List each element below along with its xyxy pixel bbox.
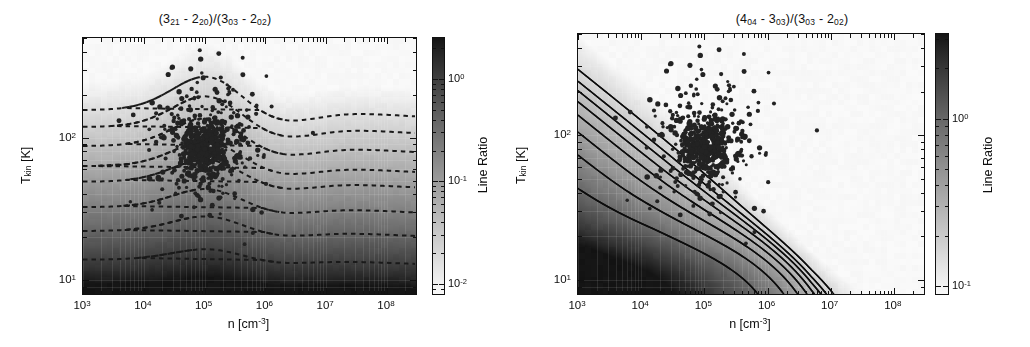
colorbar-minor-tick [441, 89, 444, 90]
tick-mantissa: 10 [377, 299, 390, 311]
scatter-points-right [578, 34, 924, 294]
x-label-base: n [cm [228, 317, 259, 331]
colorbar-title-left: Line Ratio [476, 120, 490, 210]
y-axis-label-left: Tkin [K] [19, 125, 34, 205]
colorbar-minor-tick [936, 135, 939, 136]
colorbar-minor-tick [433, 204, 436, 205]
colorbar-minor-tick [936, 185, 939, 186]
tick-mantissa: 10 [195, 299, 208, 311]
panel-left: (321 - 220)/(303 - 202) 1031041051061071… [0, 0, 515, 347]
colorbar-minor-tick [433, 191, 436, 192]
colorbar-minor-tick [433, 120, 436, 121]
x-axis-label-right: n [cm-3] [577, 316, 923, 331]
colorbar-minor-tick [441, 132, 444, 133]
colorbar-minor-tick [433, 132, 436, 133]
colorbar-minor-tick [441, 110, 444, 111]
x-tick-label: 104 [632, 299, 649, 311]
y-tick-label: 102 [541, 128, 571, 140]
colorbar-minor-tick [945, 156, 948, 157]
colorbar-tick-label: 100 [448, 72, 464, 84]
title-subscript: 02 [257, 17, 267, 27]
tick-exponent: 1 [567, 273, 571, 282]
y-label-base: T [514, 176, 528, 184]
x-tick-label: 108 [377, 299, 394, 311]
colorbar-minor-tick [433, 102, 436, 103]
x-tick-label: 104 [134, 299, 151, 311]
colorbar-minor-tick [945, 126, 948, 127]
y-tick-label: 102 [46, 130, 76, 142]
x-tick-label: 103 [568, 299, 585, 311]
tick-exponent: 1 [72, 273, 76, 282]
colorbar-minor-tick [441, 235, 444, 236]
tick-exponent: 8 [390, 299, 394, 308]
title-subscript: 03 [776, 17, 786, 27]
panel-right-title: (404 - 303)/(303 - 202) [577, 12, 1007, 27]
tick-exponent: 4 [644, 299, 648, 308]
x-tick-label: 107 [317, 299, 334, 311]
title-subscript: 20 [199, 17, 209, 27]
colorbar-minor-tick [441, 84, 444, 85]
tick-exponent: 6 [269, 299, 273, 308]
tick-mantissa: 10 [73, 299, 86, 311]
colorbar-tick-label: 10-1 [448, 174, 467, 186]
cb-mantissa: 10 [448, 277, 460, 289]
colorbar-major-tick [439, 181, 444, 182]
y-label-tail: [K] [19, 147, 33, 166]
colorbar-major-tick [433, 181, 438, 182]
colorbar-minor-tick [936, 156, 939, 157]
colorbar-minor-tick [441, 186, 444, 187]
tick-exponent: 4 [147, 299, 151, 308]
colorbar-tick-label: 100 [952, 112, 968, 124]
cb-mantissa: 10 [952, 279, 964, 291]
tick-mantissa: 10 [695, 299, 708, 311]
plot-area-left [82, 37, 417, 295]
colorbar-minor-tick [441, 204, 444, 205]
colorbar-minor-tick [433, 222, 436, 223]
scatter-points-left [83, 38, 416, 294]
colorbar-major-tick [943, 286, 948, 287]
colorbar-minor-tick [936, 145, 939, 146]
colorbar-minor-tick [433, 48, 436, 49]
y-axis-label-right: Tkin [K] [514, 125, 529, 205]
tick-mantissa: 10 [884, 299, 897, 311]
title-segment: (4 [736, 12, 748, 26]
colorbar-minor-tick [433, 289, 436, 290]
colorbar-minor-tick [441, 212, 444, 213]
cb-exponent: -1 [460, 174, 467, 183]
y-label-subscript: kin [518, 166, 528, 177]
y-tick-label: 101 [541, 273, 571, 285]
colorbar-minor-tick [433, 89, 436, 90]
y-minor-tick [83, 294, 87, 295]
colorbar-minor-tick [936, 68, 939, 69]
cb-exponent: -2 [460, 277, 467, 286]
tick-exponent: 7 [834, 299, 838, 308]
tick-mantissa: 10 [758, 299, 771, 311]
cb-exponent: 0 [460, 72, 464, 81]
y-minor-tick [921, 294, 925, 295]
x-minor-tick [416, 38, 417, 42]
colorbar-minor-tick [945, 145, 948, 146]
y-tick-label: 101 [46, 273, 76, 285]
colorbar-minor-tick [441, 95, 444, 96]
colorbar-minor-tick [433, 212, 436, 213]
tick-mantissa: 10 [632, 299, 645, 311]
title-segment: ) [844, 12, 848, 26]
title-segment: - 2 [815, 12, 834, 26]
y-minor-tick [578, 294, 582, 295]
colorbar-minor-tick [441, 151, 444, 152]
colorbar-minor-tick [441, 48, 444, 49]
tick-exponent: 2 [72, 130, 76, 139]
title-subscript: 02 [834, 17, 844, 27]
tick-mantissa: 10 [256, 299, 269, 311]
colorbar-major-tick [433, 79, 438, 80]
title-subscript: 21 [170, 17, 180, 27]
colorbar-minor-tick [936, 169, 939, 170]
colorbar-right [935, 33, 949, 295]
title-segment: - 2 [180, 12, 199, 26]
colorbar-minor-tick [433, 110, 436, 111]
tick-exponent: 2 [567, 128, 571, 137]
colorbar-minor-tick [433, 95, 436, 96]
colorbar-minor-tick [945, 39, 948, 40]
colorbar-minor-tick [433, 84, 436, 85]
panel-left-title: (321 - 220)/(303 - 202) [0, 12, 430, 27]
